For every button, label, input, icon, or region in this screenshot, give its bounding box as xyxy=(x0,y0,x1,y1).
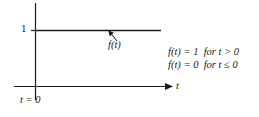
piecewise-definition-block: f(t) = 1 for t > 0 f(t) = 0 for t ≤ 0 xyxy=(168,45,239,72)
x-axis-label: t xyxy=(176,81,179,92)
y-axis-tick-label-one: 1 xyxy=(21,23,27,34)
origin-label: t = 0 xyxy=(20,95,41,106)
definition-line-positive: f(t) = 1 for t > 0 xyxy=(168,45,239,58)
unit-step-function-figure: 1 t = 0 t f(t) f(t) = 1 for t > 0 f(t) =… xyxy=(0,0,259,117)
definition-line-nonpositive: f(t) = 0 for t ≤ 0 xyxy=(168,58,239,71)
curve-callout-label: f(t) xyxy=(108,40,121,51)
